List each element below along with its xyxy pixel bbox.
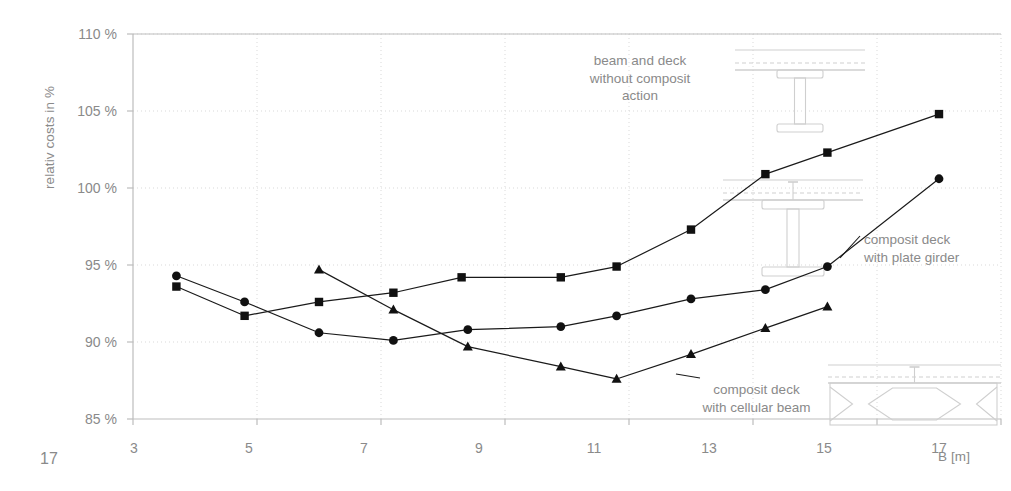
page-number: 17 xyxy=(40,450,58,468)
annotation-line: with cellular beam xyxy=(675,399,838,417)
x-tick-label: 15 xyxy=(809,440,839,456)
y-tick-label: 95 % xyxy=(55,257,117,273)
x-tick-label: 9 xyxy=(464,440,494,456)
annotation-line: with plate girder xyxy=(864,249,959,267)
x-tick-label: 11 xyxy=(579,440,609,456)
annotation-line: composit deck xyxy=(675,381,838,399)
annotation-composite-deck-with-plate-girder: composit deck with plate girder xyxy=(864,231,959,266)
x-tick-label: 13 xyxy=(694,440,724,456)
annotation-composite-deck-with-cellular-beam: composit deck with cellular beam xyxy=(675,381,838,416)
cellular-beam-composite-diagram-icon xyxy=(828,365,1001,425)
annotation-line: action xyxy=(560,87,720,105)
x-tick-label: 5 xyxy=(234,440,264,456)
y-tick-label: 100 % xyxy=(55,180,117,196)
y-tick-label: 90 % xyxy=(55,334,117,350)
y-tick-label: 85 % xyxy=(55,411,117,427)
x-tick-label: 17 xyxy=(924,440,954,456)
plate-girder-composite-diagram-icon xyxy=(723,180,863,276)
plot-area xyxy=(0,0,1011,491)
x-tick-label: 7 xyxy=(349,440,379,456)
annotation-line: composit deck xyxy=(864,231,959,249)
annotation-leader-lines xyxy=(676,236,860,378)
y-tick-label: 105 % xyxy=(55,103,117,119)
x-tick-label: 3 xyxy=(119,440,149,456)
annotation-line: without composit xyxy=(560,70,720,88)
chart-figure: relativ costs in % B [m] 110 % 105 % 100… xyxy=(0,0,1011,491)
y-tick-label: 110 % xyxy=(55,26,117,42)
annotation-beam-deck-without-composite-action: beam and deck without composit action xyxy=(560,52,720,105)
beam-deck-noncomposite-diagram-icon xyxy=(735,50,865,132)
annotation-line: beam and deck xyxy=(560,52,720,70)
